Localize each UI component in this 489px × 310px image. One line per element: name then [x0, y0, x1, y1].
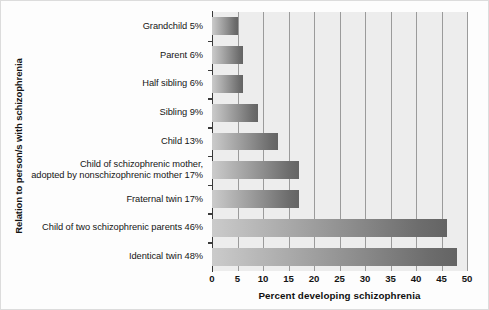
category-label-line: adopted by nonschizophrenic mother 17% [31, 170, 203, 181]
category-label-line: Child 13% [161, 136, 203, 147]
bar [212, 248, 457, 266]
category-label-line: Sibling 9% [160, 107, 203, 118]
y-axis-tick [208, 242, 212, 243]
y-axis-tick [208, 213, 212, 214]
category-label-line: Identical twin 48% [129, 251, 203, 262]
category-label: Sibling 9% [160, 107, 203, 118]
category-label: Parent 6% [160, 50, 203, 61]
category-label: Identical twin 48% [129, 251, 203, 262]
x-axis-title: Percent developing schizophrenia [212, 290, 467, 301]
y-axis-tick [208, 127, 212, 128]
category-label-line: Fraternal twin 17% [126, 194, 203, 205]
bar [212, 161, 299, 179]
gridline [467, 12, 468, 271]
x-axis-tick-label: 35 [385, 273, 396, 284]
y-axis-tick [208, 41, 212, 42]
y-axis-tick [208, 98, 212, 99]
category-label: Child of two schizophrenic parents 46% [42, 222, 203, 233]
category-label-line: Half sibling 6% [142, 78, 203, 89]
x-axis-tick-label: 25 [334, 273, 345, 284]
chart-figure: Relation to person/s with schizophrenia … [0, 0, 489, 310]
bar [212, 104, 258, 122]
x-axis-tick-label: 5 [235, 273, 240, 284]
x-axis-tick-label: 10 [258, 273, 269, 284]
bar [212, 219, 447, 237]
x-axis-tick-labels: 05101520253035404550 [212, 273, 467, 287]
bar [212, 190, 299, 208]
y-axis-category-labels: Grandchild 5%Parent 6%Half sibling 6%Sib… [25, 12, 207, 271]
x-axis-tick-label: 45 [436, 273, 447, 284]
category-label-line: Parent 6% [160, 50, 203, 61]
y-axis-tick [208, 185, 212, 186]
x-axis-tick-label: 30 [360, 273, 371, 284]
x-axis-tick-label: 20 [309, 273, 320, 284]
category-label-line: Child of two schizophrenic parents 46% [42, 222, 203, 233]
category-label-line: Child of schizophrenic mother, [31, 159, 203, 170]
y-axis-tick [208, 156, 212, 157]
y-axis-tick [208, 70, 212, 71]
category-label: Half sibling 6% [142, 78, 203, 89]
plot-area [212, 12, 467, 271]
category-label: Fraternal twin 17% [126, 194, 203, 205]
category-label: Child of schizophrenic mother,adopted by… [31, 159, 203, 181]
bar [212, 133, 278, 151]
bar [212, 46, 243, 64]
category-label-line: Grandchild 5% [143, 21, 203, 32]
bar [212, 17, 238, 35]
x-axis-tick-label: 15 [283, 273, 294, 284]
bar [212, 75, 243, 93]
x-axis-tick-label: 40 [411, 273, 422, 284]
x-axis-tick-label: 0 [209, 273, 214, 284]
category-label: Child 13% [161, 136, 203, 147]
category-label: Grandchild 5% [143, 21, 203, 32]
x-axis-tick-label: 50 [462, 273, 473, 284]
